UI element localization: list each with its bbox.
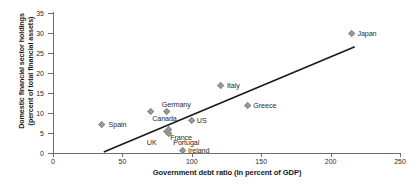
data-point-marker[interactable] [245, 103, 250, 108]
data-point-marker[interactable] [349, 31, 354, 36]
y-tick-label: 10 [0, 110, 44, 117]
y-tick-mark [48, 53, 53, 54]
x-tick-mark [400, 153, 401, 157]
x-tick-mark [331, 153, 332, 157]
y-tick-label: 0 [0, 150, 44, 157]
data-point-label: US [197, 117, 207, 125]
x-tick-label: 150 [246, 158, 276, 166]
data-point-marker[interactable] [166, 127, 171, 132]
y-tick-mark [48, 73, 53, 74]
x-tick-label: 100 [177, 158, 207, 166]
data-point-marker[interactable] [180, 148, 185, 153]
y-tick-label: 25 [0, 50, 44, 57]
y-tick-label: 15 [0, 90, 44, 97]
data-point-label: Italy [227, 82, 240, 90]
data-point-label: Japan [357, 30, 376, 38]
y-tick-label: 30 [0, 30, 44, 37]
y-tick-mark [48, 13, 53, 14]
y-tick-mark [48, 33, 53, 34]
data-point-marker[interactable] [164, 109, 169, 114]
marker-diamond-icon [188, 117, 196, 125]
data-point-label: Ireland [188, 147, 209, 155]
y-tick-label: 5 [0, 130, 44, 137]
data-point-marker[interactable] [99, 122, 104, 127]
x-tick-label: 0 [38, 158, 68, 166]
marker-diamond-icon [244, 101, 252, 109]
scatter-chart: Domestic financial sector holdings (perc… [0, 0, 417, 185]
marker-diamond-icon [98, 121, 106, 129]
x-tick-label: 50 [107, 158, 137, 166]
y-tick-label: 20 [0, 70, 44, 77]
x-axis-title: Government debt ratio (In percent of GDP… [53, 168, 401, 177]
y-tick-mark [48, 133, 53, 134]
x-axis-line [53, 153, 401, 154]
x-tick-label: 200 [316, 158, 346, 166]
x-tick-mark [122, 153, 123, 157]
marker-diamond-icon [348, 29, 356, 37]
data-point-label: Canada [152, 115, 177, 123]
marker-diamond-icon [217, 81, 225, 89]
data-point-marker[interactable] [218, 83, 223, 88]
x-tick-mark [261, 153, 262, 157]
y-axis-line [53, 12, 54, 154]
data-point-marker[interactable] [189, 118, 194, 123]
y-tick-mark [48, 113, 53, 114]
data-point-label: Greece [253, 102, 276, 110]
x-tick-label: 250 [385, 158, 415, 166]
data-point-label: Germany [162, 101, 191, 109]
data-point-label: Spain [109, 121, 127, 129]
y-tick-mark [48, 93, 53, 94]
data-point-label: UK [147, 139, 157, 147]
x-tick-mark [53, 153, 54, 157]
y-tick-label: 35 [0, 10, 44, 17]
